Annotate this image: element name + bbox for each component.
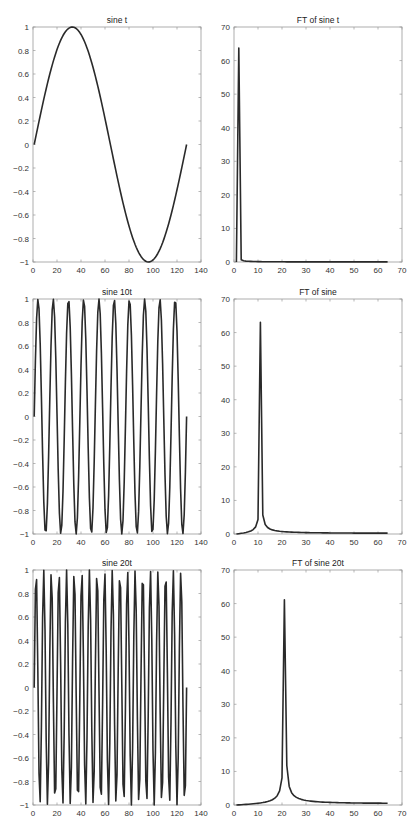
x-tick-label: 40 <box>326 266 335 275</box>
x-tick-label: 50 <box>350 809 359 818</box>
y-tick-label: 1 <box>25 295 30 304</box>
y-tick-label: 0.4 <box>18 366 30 375</box>
x-tick-label: 0 <box>232 266 237 275</box>
chart-panel-4: FT of sine010203040506070010203040506070 <box>221 287 407 547</box>
x-tick-label: 40 <box>77 538 86 547</box>
x-tick-label: 140 <box>194 809 208 818</box>
x-tick-label: 20 <box>278 266 287 275</box>
y-tick-label: 1 <box>25 566 30 575</box>
y-tick-label: 70 <box>221 295 230 304</box>
x-tick-label: 30 <box>302 266 311 275</box>
y-tick-label: −0.8 <box>13 778 29 787</box>
y-tick-label: 0 <box>25 684 30 693</box>
y-tick-label: 40 <box>221 667 230 676</box>
y-tick-label: 20 <box>221 191 230 200</box>
y-tick-label: 0.4 <box>18 94 30 103</box>
y-tick-label: 10 <box>221 496 230 505</box>
x-tick-label: 70 <box>398 538 407 547</box>
x-tick-label: 100 <box>146 809 160 818</box>
y-tick-label: −0.8 <box>13 235 29 244</box>
x-tick-label: 60 <box>101 809 110 818</box>
y-tick-label: 0 <box>226 258 231 267</box>
x-tick-label: 40 <box>326 538 335 547</box>
y-tick-label: −0.2 <box>13 164 29 173</box>
y-tick-label: −0.4 <box>13 731 29 740</box>
y-tick-label: −0.4 <box>13 460 29 469</box>
y-tick-label: 0.6 <box>18 613 30 622</box>
y-tick-label: 0 <box>226 801 231 810</box>
y-tick-label: 20 <box>221 463 230 472</box>
y-tick-label: 30 <box>221 157 230 166</box>
x-tick-label: 20 <box>278 538 287 547</box>
y-tick-label: 10 <box>221 767 230 776</box>
x-tick-label: 60 <box>374 266 383 275</box>
x-tick-label: 20 <box>278 809 287 818</box>
x-tick-label: 40 <box>77 809 86 818</box>
x-tick-label: 40 <box>326 809 335 818</box>
x-tick-label: 20 <box>53 538 62 547</box>
chart-title: sine 10t <box>102 287 132 297</box>
figure-canvas: sine t020406080100120140−1−0.8−0.6−0.4−0… <box>0 0 416 829</box>
x-tick-label: 0 <box>31 809 36 818</box>
chart-title: FT of sine t <box>297 15 340 25</box>
x-tick-label: 120 <box>170 809 184 818</box>
x-tick-label: 70 <box>398 266 407 275</box>
y-tick-label: 10 <box>221 224 230 233</box>
y-tick-label: 70 <box>221 23 230 32</box>
y-tick-label: 40 <box>221 124 230 133</box>
y-tick-label: −0.2 <box>13 436 29 445</box>
x-tick-label: 30 <box>302 809 311 818</box>
x-tick-label: 0 <box>232 809 237 818</box>
y-tick-label: 1 <box>25 23 30 32</box>
x-tick-label: 120 <box>170 538 184 547</box>
y-tick-label: −0.4 <box>13 188 29 197</box>
y-tick-label: 0.6 <box>18 70 30 79</box>
y-tick-label: 40 <box>221 396 230 405</box>
x-tick-label: 100 <box>146 538 160 547</box>
y-tick-label: −0.2 <box>13 707 29 716</box>
y-tick-label: 60 <box>221 329 230 338</box>
y-tick-label: 30 <box>221 429 230 438</box>
axes-box <box>234 570 402 805</box>
chart-panel-6: FT of sine 20t01020304050607001020304050… <box>221 558 407 818</box>
x-tick-label: 30 <box>302 538 311 547</box>
y-tick-label: 50 <box>221 90 230 99</box>
axes-box <box>234 27 402 262</box>
y-tick-label: −1 <box>20 530 30 539</box>
x-tick-label: 80 <box>125 809 134 818</box>
x-tick-label: 60 <box>374 809 383 818</box>
x-tick-label: 40 <box>77 266 86 275</box>
x-tick-label: 80 <box>125 266 134 275</box>
y-tick-label: −1 <box>20 258 30 267</box>
y-tick-label: 60 <box>221 600 230 609</box>
x-tick-label: 20 <box>53 809 62 818</box>
x-tick-label: 140 <box>194 538 208 547</box>
x-tick-label: 10 <box>254 809 263 818</box>
chart-title: FT of sine <box>299 287 337 297</box>
y-tick-label: 0.8 <box>18 47 30 56</box>
y-tick-label: −0.8 <box>13 507 29 516</box>
x-tick-label: 140 <box>194 266 208 275</box>
x-tick-label: 80 <box>125 538 134 547</box>
x-tick-label: 50 <box>350 538 359 547</box>
y-tick-label: 30 <box>221 700 230 709</box>
axes-box <box>33 27 201 262</box>
x-tick-label: 0 <box>31 538 36 547</box>
y-tick-label: −0.6 <box>13 211 29 220</box>
x-tick-label: 60 <box>374 538 383 547</box>
y-tick-label: 0.4 <box>18 637 30 646</box>
y-tick-label: 70 <box>221 566 230 575</box>
y-tick-label: 0 <box>226 530 231 539</box>
y-tick-label: 0.2 <box>18 117 30 126</box>
y-tick-label: 50 <box>221 362 230 371</box>
x-tick-label: 60 <box>101 538 110 547</box>
y-tick-label: 0.8 <box>18 590 30 599</box>
y-tick-label: −0.6 <box>13 483 29 492</box>
x-tick-label: 10 <box>254 538 263 547</box>
y-tick-label: −0.6 <box>13 754 29 763</box>
x-tick-label: 50 <box>350 266 359 275</box>
x-tick-label: 0 <box>31 266 36 275</box>
chart-title: sine 20t <box>102 558 132 568</box>
y-tick-label: 60 <box>221 57 230 66</box>
x-tick-label: 60 <box>101 266 110 275</box>
